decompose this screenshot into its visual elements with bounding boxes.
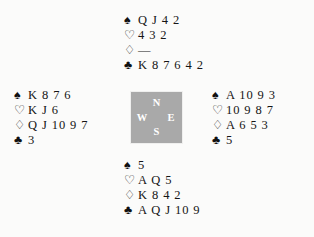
heart-icon: ♡: [212, 103, 225, 118]
compass-box: N W E S: [131, 92, 182, 143]
hand-east-club-row: ♣ 5: [212, 133, 276, 148]
hand-south-diamonds: K 8 4 2: [137, 188, 181, 203]
compass-north-label: N: [151, 98, 163, 109]
hand-east-diamonds: A 6 5 3: [225, 118, 269, 133]
hand-south-clubs: A Q J 10 9: [137, 203, 200, 218]
club-icon: ♣: [14, 133, 27, 148]
hand-south-spades: 5: [137, 158, 145, 173]
hand-north-spades: Q J 4 2: [137, 13, 180, 28]
hand-west-spade-row: ♠ K 8 7 6: [14, 88, 88, 103]
spade-icon: ♠: [124, 13, 137, 28]
hand-north-hearts: 4 3 2: [137, 28, 168, 43]
hand-south-hearts: A Q 5: [137, 173, 172, 188]
compass-west-label: W: [136, 113, 148, 124]
hand-north-spade-row: ♠ Q J 4 2: [124, 13, 204, 28]
hand-east-hearts: 10 9 8 7: [225, 103, 274, 118]
hand-south: ♠ 5 ♡ A Q 5 ♢ K 8 4 2 ♣ A Q J 10 9: [124, 158, 200, 218]
spade-icon: ♠: [212, 88, 225, 103]
hand-south-club-row: ♣ A Q J 10 9: [124, 203, 200, 218]
hand-west-diamonds: Q J 10 9 7: [27, 118, 88, 133]
hand-west-hearts: K J 6: [27, 103, 59, 118]
hand-south-heart-row: ♡ A Q 5: [124, 173, 200, 188]
hand-east-clubs: 5: [225, 133, 233, 148]
hand-west-heart-row: ♡ K J 6: [14, 103, 88, 118]
hand-west-club-row: ♣ 3: [14, 133, 88, 148]
hand-east: ♠ A 10 9 3 ♡ 10 9 8 7 ♢ A 6 5 3 ♣ 5: [212, 88, 276, 148]
diamond-icon: ♢: [212, 118, 225, 133]
hand-east-spade-row: ♠ A 10 9 3: [212, 88, 276, 103]
hand-west: ♠ K 8 7 6 ♡ K J 6 ♢ Q J 10 9 7 ♣ 3: [14, 88, 88, 148]
hand-west-spades: K 8 7 6: [27, 88, 71, 103]
spade-icon: ♠: [124, 158, 137, 173]
heart-icon: ♡: [124, 173, 137, 188]
hand-north: ♠ Q J 4 2 ♡ 4 3 2 ♢ — ♣ K 8 7 6 4 2: [124, 13, 204, 73]
diamond-icon: ♢: [124, 43, 137, 58]
club-icon: ♣: [212, 133, 225, 148]
spade-icon: ♠: [14, 88, 27, 103]
heart-icon: ♡: [124, 28, 137, 43]
hand-north-diamonds: —: [137, 43, 151, 58]
hand-north-club-row: ♣ K 8 7 6 4 2: [124, 58, 204, 73]
hand-east-diamond-row: ♢ A 6 5 3: [212, 118, 276, 133]
hand-east-heart-row: ♡ 10 9 8 7: [212, 103, 276, 118]
club-icon: ♣: [124, 58, 137, 73]
compass-east-label: E: [165, 113, 177, 124]
hand-south-spade-row: ♠ 5: [124, 158, 200, 173]
diamond-icon: ♢: [14, 118, 27, 133]
hand-west-clubs: 3: [27, 133, 35, 148]
hand-north-heart-row: ♡ 4 3 2: [124, 28, 204, 43]
hand-north-clubs: K 8 7 6 4 2: [137, 58, 204, 73]
hand-east-spades: A 10 9 3: [225, 88, 276, 103]
bridge-deal-diagram: ♠ Q J 4 2 ♡ 4 3 2 ♢ — ♣ K 8 7 6 4 2 ♠ K …: [0, 0, 314, 237]
hand-west-diamond-row: ♢ Q J 10 9 7: [14, 118, 88, 133]
diamond-icon: ♢: [124, 188, 137, 203]
hand-south-diamond-row: ♢ K 8 4 2: [124, 188, 200, 203]
club-icon: ♣: [124, 203, 137, 218]
compass-south-label: S: [151, 127, 163, 138]
hand-north-diamond-row: ♢ —: [124, 43, 204, 58]
heart-icon: ♡: [14, 103, 27, 118]
